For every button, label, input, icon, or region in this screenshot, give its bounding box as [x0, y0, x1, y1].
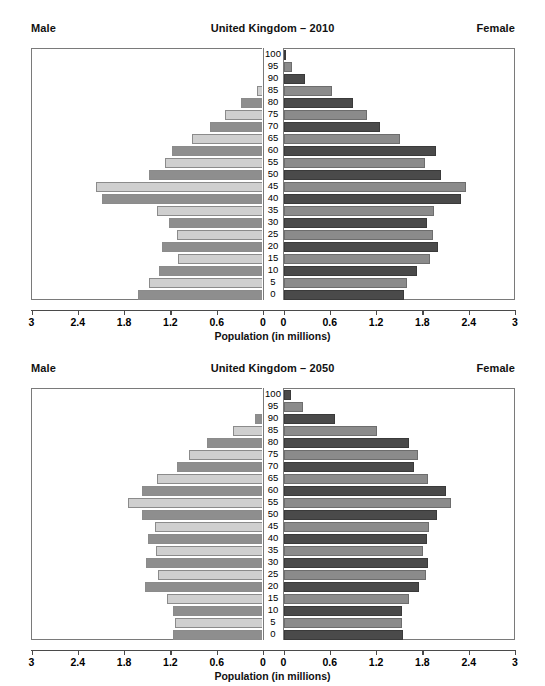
female-bar [284, 534, 427, 544]
x-tick-label: 0 [260, 316, 266, 328]
male-bar [102, 194, 282, 204]
age-tick-label: 20 [263, 580, 283, 592]
x-tick-label: 1.2 [369, 656, 384, 668]
age-label-column: 1009590858075706560555045403530252015105… [263, 48, 283, 300]
x-tick-label: 0.6 [322, 316, 337, 328]
female-bar [284, 486, 446, 496]
age-tick-label: 40 [263, 532, 283, 544]
age-tick-label: 30 [263, 216, 283, 228]
female-bar [284, 546, 423, 556]
x-tick-label: 2.4 [461, 656, 476, 668]
female-bar [284, 170, 441, 180]
x-tick-label: 0 [281, 656, 287, 668]
age-tick-label: 60 [263, 484, 283, 496]
x-tick-label: 2.4 [70, 656, 85, 668]
age-tick-label: 25 [263, 228, 283, 240]
x-tick-label: 1.2 [369, 316, 384, 328]
x-tick [32, 310, 33, 315]
female-side-label: Female [476, 22, 515, 34]
x-tick [170, 650, 171, 655]
age-tick-label: 45 [263, 520, 283, 532]
panel-title: United Kingdom – 2010 [0, 22, 545, 34]
pyramid-panel-2050: Male United Kingdom – 2050 Female 100959… [0, 340, 545, 680]
x-tick-label: 1.2 [163, 656, 178, 668]
x-tick-label: 3 [512, 316, 518, 328]
x-tick-label: 2.4 [70, 316, 85, 328]
male-zero-axis [263, 388, 264, 640]
age-tick-label: 40 [263, 192, 283, 204]
age-tick-label: 65 [263, 132, 283, 144]
age-tick-label: 85 [263, 424, 283, 436]
age-tick-label: 10 [263, 604, 283, 616]
age-tick-label: 90 [263, 72, 283, 84]
female-bar [284, 290, 404, 300]
female-bar [284, 146, 436, 156]
age-tick-label: 35 [263, 204, 283, 216]
age-tick-label: 55 [263, 496, 283, 508]
panel-title: United Kingdom – 2050 [0, 362, 545, 374]
x-tick [263, 310, 264, 315]
female-bar [284, 230, 433, 240]
age-tick-label: 75 [263, 448, 283, 460]
female-bar [284, 134, 400, 144]
x-tick-label: 0 [260, 656, 266, 668]
age-tick-label: 75 [263, 108, 283, 120]
x-tick [330, 650, 331, 655]
x-tick-label: 3 [29, 656, 35, 668]
x-tick-label: 1.8 [415, 316, 430, 328]
age-tick-label: 70 [263, 120, 283, 132]
x-tick-label: 1.8 [117, 316, 132, 328]
age-tick-label: 100 [263, 48, 283, 60]
female-bar [284, 594, 409, 604]
x-tick-label: 0.6 [209, 316, 224, 328]
female-bar [284, 438, 409, 448]
male-zero-axis [263, 48, 264, 300]
x-tick [284, 310, 285, 315]
x-tick [78, 310, 79, 315]
female-bar [284, 426, 377, 436]
female-bar [284, 618, 402, 628]
male-bar [96, 182, 282, 192]
age-tick-label: 10 [263, 264, 283, 276]
x-tick [515, 650, 516, 655]
female-bar [284, 98, 353, 108]
age-tick-label: 60 [263, 144, 283, 156]
female-bar [284, 206, 434, 216]
female-bar [284, 606, 402, 616]
female-bar [284, 278, 407, 288]
female-bar [284, 218, 427, 228]
female-bar [284, 522, 429, 532]
age-tick-label: 15 [263, 592, 283, 604]
x-tick-label: 1.8 [415, 656, 430, 668]
age-tick-label: 5 [263, 616, 283, 628]
female-bar [284, 266, 417, 276]
x-axis-title: Population (in millions) [0, 670, 545, 682]
female-bar [284, 630, 403, 640]
population-pyramid-figure: Male United Kingdom – 2010 Female 100959… [0, 0, 545, 686]
age-tick-label: 15 [263, 252, 283, 264]
x-tick-label: 1.8 [117, 656, 132, 668]
age-tick-label: 90 [263, 412, 283, 424]
age-label-column: 1009590858075706560555045403530252015105… [263, 388, 283, 640]
x-tick [124, 310, 125, 315]
age-tick-label: 50 [263, 168, 283, 180]
female-bar [284, 402, 303, 412]
x-tick [330, 310, 331, 315]
female-bar [284, 158, 425, 168]
male-bar [142, 510, 282, 520]
age-tick-label: 55 [263, 156, 283, 168]
female-bar [284, 182, 466, 192]
age-tick-label: 50 [263, 508, 283, 520]
x-tick [284, 650, 285, 655]
x-tick [217, 310, 218, 315]
female-bar [284, 62, 292, 72]
age-tick-label: 95 [263, 60, 283, 72]
male-bar [128, 498, 282, 508]
female-bar [284, 462, 414, 472]
male-bar [142, 486, 282, 496]
age-tick-label: 100 [263, 388, 283, 400]
x-tick [124, 650, 125, 655]
female-side-label: Female [476, 362, 515, 374]
panel-header: Male United Kingdom – 2050 Female [0, 362, 545, 378]
female-bar [284, 194, 461, 204]
